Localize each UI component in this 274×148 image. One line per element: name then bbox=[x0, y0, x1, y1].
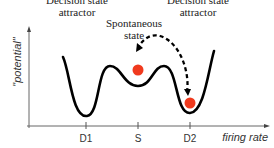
spontaneous-label-line1: Spontaneous bbox=[106, 17, 162, 29]
title-right-line2: attractor bbox=[180, 6, 217, 18]
ball-spontaneous-state bbox=[133, 65, 144, 76]
x-axis-label: firing rate bbox=[222, 131, 268, 143]
y-axis-label: "potential" bbox=[11, 36, 23, 86]
arrowhead-to-d2-icon bbox=[184, 89, 191, 96]
arrowhead-to-s-icon bbox=[136, 43, 143, 52]
title-left-line2: attractor bbox=[59, 6, 96, 18]
x-axis-arrow-icon bbox=[264, 124, 270, 128]
tick-label-d1: D1 bbox=[80, 133, 93, 144]
tick-label-d2: D2 bbox=[184, 133, 197, 144]
attractor-diagram: Decision state attractor Decision state … bbox=[0, 0, 274, 148]
ball-decision-state-d2 bbox=[185, 98, 196, 109]
y-axis-arrow-icon bbox=[27, 26, 31, 32]
tick-label-s: S bbox=[135, 133, 142, 144]
spontaneous-label-line2: state bbox=[124, 29, 144, 41]
